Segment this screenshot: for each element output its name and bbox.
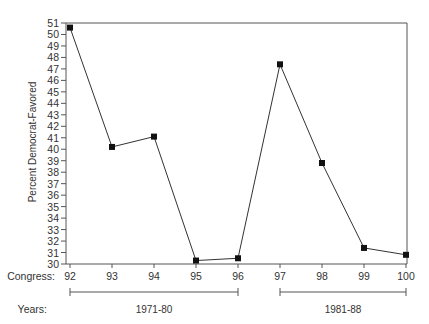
y-tick-label: 44	[47, 97, 59, 109]
x-tick-label: 95	[190, 270, 202, 282]
year-range-label: 1981-88	[325, 304, 362, 315]
year-ranges: 1971-801981-88	[70, 288, 406, 315]
data-point-marker	[403, 252, 409, 258]
y-tick-label: 49	[47, 40, 59, 52]
y-axis: 3031323334353637383940414243444546474849…	[47, 17, 66, 270]
data-point-marker	[109, 144, 115, 150]
line-chart: 3031323334353637383940414243444546474849…	[0, 0, 429, 324]
y-tick-label: 32	[47, 235, 59, 247]
congress-label: Congress:	[7, 270, 55, 282]
x-tick-label: 93	[106, 270, 118, 282]
x-tick-label: 97	[274, 270, 286, 282]
y-tick-label: 34	[47, 212, 59, 224]
y-tick-label: 35	[47, 201, 59, 213]
data-point-marker	[67, 25, 73, 31]
data-point-marker	[277, 61, 283, 67]
data-point-marker	[193, 258, 199, 264]
y-tick-label: 31	[47, 247, 59, 259]
data-point-marker	[151, 134, 157, 140]
y-tick-label: 30	[47, 258, 59, 270]
x-tick-label: 92	[64, 270, 76, 282]
y-tick-label: 48	[47, 51, 59, 63]
data-point-marker	[319, 160, 325, 166]
data-point-marker	[235, 255, 241, 261]
x-axis: 9293949596979899100	[64, 264, 415, 282]
y-tick-label: 46	[47, 74, 59, 86]
y-tick-label: 51	[47, 17, 59, 29]
y-tick-label: 37	[47, 178, 59, 190]
y-tick-label: 36	[47, 189, 59, 201]
y-tick-label: 42	[47, 120, 59, 132]
y-tick-label: 40	[47, 143, 59, 155]
y-tick-label: 47	[47, 63, 59, 75]
x-tick-label: 100	[397, 270, 415, 282]
y-axis-label: Percent Democrat-Favored	[27, 82, 38, 203]
x-tick-label: 96	[232, 270, 244, 282]
y-tick-label: 38	[47, 166, 59, 178]
y-tick-label: 41	[47, 132, 59, 144]
y-tick-label: 33	[47, 224, 59, 236]
plot-frame	[66, 23, 407, 264]
y-tick-label: 45	[47, 86, 59, 98]
data-point-marker	[361, 245, 367, 251]
x-tick-label: 99	[358, 270, 370, 282]
year-range-label: 1971-80	[136, 304, 173, 315]
x-tick-label: 98	[316, 270, 328, 282]
y-tick-label: 43	[47, 109, 59, 121]
y-tick-label: 39	[47, 155, 59, 167]
x-tick-label: 94	[148, 270, 160, 282]
series-line	[70, 28, 406, 261]
y-tick-label: 50	[47, 28, 59, 40]
data-series	[67, 25, 409, 264]
years-label: Years:	[18, 303, 47, 315]
